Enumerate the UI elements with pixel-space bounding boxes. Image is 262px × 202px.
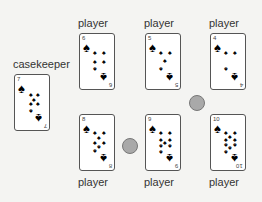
player-card[interactable]: 6 ♠ ♠ ♠ ♠ ♠ ♠ ♠ 6	[79, 33, 115, 90]
spade-icon: ♠	[102, 129, 106, 136]
card-rank: 6	[109, 82, 112, 88]
chip[interactable]	[122, 138, 138, 154]
player-label: player	[144, 176, 174, 188]
spade-icon: ♠	[214, 41, 221, 54]
spade-icon: ♠	[231, 71, 238, 84]
spade-icon: ♠	[102, 49, 106, 56]
card-rank: 8	[109, 163, 112, 169]
spade-icon: ♠	[93, 66, 97, 73]
spade-icon: ♠	[168, 136, 172, 143]
spade-icon: ♠	[29, 108, 33, 115]
player-card[interactable]: 5 ♠ ♠ ♠ ♠ ♠ ♠ 5	[145, 33, 181, 90]
spade-icon: ♠	[233, 129, 237, 136]
card-rank: 7	[44, 123, 47, 129]
spade-icon: ♠	[93, 148, 97, 155]
spade-icon: ♠	[228, 133, 232, 140]
spade-icon: ♠	[159, 66, 163, 73]
player-card[interactable]: 10 ♠ ♠ ♠ ♠ ♠ ♠ ♠ ♠ ♠ ♠ ♠ 10	[210, 114, 246, 171]
player-card[interactable]: 4 ♠ ♠ ♠ ♠ ♠ 4	[210, 33, 246, 90]
chip[interactable]	[189, 95, 205, 111]
spade-icon: ♠	[233, 142, 237, 149]
spade-icon: ♠	[36, 91, 40, 98]
spade-icon: ♠	[214, 122, 221, 135]
spade-icon: ♠	[100, 152, 107, 165]
spade-icon: ♠	[224, 49, 228, 56]
spade-icon: ♠	[168, 49, 172, 56]
card-rank: 10	[236, 163, 243, 169]
spade-icon: ♠	[93, 58, 97, 65]
spade-icon: ♠	[97, 134, 101, 141]
spade-icon: ♠	[166, 152, 173, 165]
card-rank: 5	[175, 82, 178, 88]
spade-icon: ♠	[166, 71, 173, 84]
spade-icon: ♠	[163, 139, 167, 146]
spade-icon: ♠	[35, 112, 42, 125]
player-label: player	[209, 176, 239, 188]
spade-icon: ♠	[159, 149, 163, 156]
player-label: player	[144, 17, 174, 29]
casekeeper-card[interactable]: 7 ♠ ♠ ♠ ♠ ♠ ♠ ♠ ♠ 7	[14, 74, 50, 131]
spade-icon: ♠	[168, 143, 172, 150]
spade-icon: ♠	[149, 122, 156, 135]
spade-icon: ♠	[168, 129, 172, 136]
card-rank: 4	[240, 82, 243, 88]
spade-icon: ♠	[93, 49, 97, 56]
spade-icon: ♠	[83, 122, 90, 135]
spade-icon: ♠	[97, 144, 101, 151]
spade-icon: ♠	[102, 58, 106, 65]
player-card[interactable]: 9 ♠ ♠ ♠ ♠ ♠ ♠ ♠ ♠ ♠ ♠ 9	[145, 114, 181, 171]
spade-icon: ♠	[100, 71, 107, 84]
spade-icon: ♠	[159, 129, 163, 136]
spade-icon: ♠	[83, 41, 90, 54]
card-rank: 9	[175, 163, 178, 169]
spade-icon: ♠	[18, 82, 25, 95]
spade-icon: ♠	[224, 66, 228, 73]
spade-icon: ♠	[159, 49, 163, 56]
spade-icon: ♠	[32, 96, 36, 103]
player-label: player	[78, 17, 108, 29]
spade-icon: ♠	[36, 100, 40, 107]
spade-icon: ♠	[233, 49, 237, 56]
player-label: player	[78, 176, 108, 188]
spade-icon: ♠	[149, 41, 156, 54]
spade-icon: ♠	[163, 57, 167, 64]
spade-icon: ♠	[102, 139, 106, 146]
player-card[interactable]: 8 ♠ ♠ ♠ ♠ ♠ ♠ ♠ ♠ ♠ 8	[79, 114, 115, 171]
casekeeper-label: casekeeper	[13, 58, 70, 70]
spade-icon: ♠	[224, 149, 228, 156]
player-label: player	[209, 17, 239, 29]
